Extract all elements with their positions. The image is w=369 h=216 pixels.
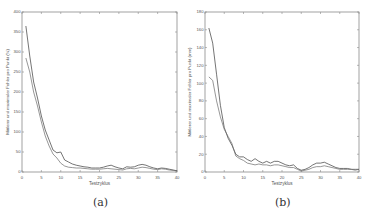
y-tick-label: 80 (199, 98, 204, 103)
y-tick-label: 150 (14, 109, 22, 114)
x-tick-label: 5 (223, 175, 226, 180)
chart-b: 0510152025303540020406080100120140160180… (187, 9, 362, 186)
y-tick-label: 40 (199, 134, 204, 139)
x-tick-label: 0 (204, 175, 207, 180)
y-tick-label: 160 (197, 27, 205, 32)
x-tick-label: 10 (241, 175, 246, 180)
y-tick-label: 180 (197, 9, 205, 14)
y-tick-label: 60 (199, 116, 204, 121)
caption-b: (b) (275, 196, 291, 209)
y-tick-label: 250 (14, 69, 22, 74)
series-line (26, 26, 177, 171)
x-tick-label: 25 (299, 175, 304, 180)
y-tick-label: 140 (197, 45, 205, 50)
y-tick-label: 350 (14, 29, 22, 34)
y-tick-label: 300 (14, 49, 22, 54)
y-tick-label: 100 (14, 129, 22, 134)
x-tick-label: 25 (117, 175, 122, 180)
plot-frame (22, 12, 177, 172)
y-tick-label: 50 (16, 149, 21, 154)
x-tick-label: 5 (40, 175, 43, 180)
x-tick-label: 40 (175, 175, 180, 180)
x-tick-label: 15 (260, 175, 265, 180)
x-tick-label: 30 (136, 175, 141, 180)
series-line (209, 77, 359, 171)
y-tick-label: 20 (199, 152, 204, 157)
chart-a: 0510152025303540050100150200250300350400… (5, 9, 180, 186)
y-tick-label: 120 (197, 63, 205, 68)
series-line (26, 58, 177, 171)
x-axis-label: Testzyklus (89, 181, 111, 186)
x-tick-label: 20 (97, 175, 102, 180)
x-tick-label: 35 (155, 175, 160, 180)
x-tick-label: 30 (318, 175, 323, 180)
x-tick-label: 20 (280, 175, 285, 180)
plot-frame (205, 12, 359, 172)
x-tick-label: 0 (21, 175, 24, 180)
y-axis-label: Mittlerer und maximaler Fehler pro Punkt… (5, 49, 10, 135)
x-tick-label: 10 (58, 175, 63, 180)
y-tick-label: 0 (201, 169, 204, 174)
y-tick-label: 0 (18, 169, 21, 174)
caption-a: (a) (93, 196, 108, 209)
y-tick-label: 100 (197, 81, 205, 86)
x-tick-label: 35 (337, 175, 342, 180)
y-tick-label: 200 (14, 89, 22, 94)
y-axis-label: Mittlerer und maximaler Fehler pro Punkt… (187, 47, 192, 137)
series-line (209, 28, 359, 170)
x-axis-label: Testzyklus (271, 181, 293, 186)
x-tick-label: 40 (357, 175, 362, 180)
figure: 0510152025303540050100150200250300350400… (0, 0, 369, 216)
x-tick-label: 15 (78, 175, 83, 180)
y-tick-label: 400 (14, 9, 22, 14)
